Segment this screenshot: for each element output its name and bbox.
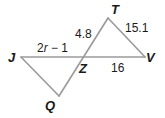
vertex-label-z: Z [78,61,88,76]
geometry-diagram: J Z V T Q 2r − 1 4.8 15.1 16 [0,0,165,118]
segment-jq [21,57,59,96]
measure-tv: 15.1 [125,21,149,35]
measure-jz: 2r − 1 [37,41,68,55]
measure-zv: 16 [111,61,125,75]
vertex-label-j: J [8,50,16,65]
vertex-label-q: Q [45,98,55,113]
vertex-label-t: T [111,2,120,17]
measure-zt: 4.8 [75,27,92,41]
vertex-label-v: V [146,50,156,65]
